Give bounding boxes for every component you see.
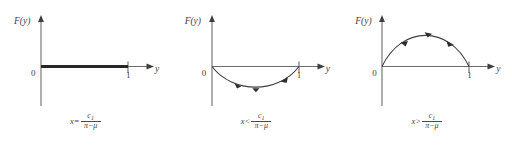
panel-2-numerator-subscript: 1 (262, 115, 265, 121)
panel-3-curve (382, 35, 469, 66)
panel-1-x-axis-label: y (155, 64, 159, 74)
panel-2-caption: x < c1 π−μ (171, 112, 342, 130)
panel-2-x-axis-label: y (326, 64, 330, 74)
panel-1-x-axis-arrowhead (146, 63, 153, 69)
panel-3-caption-fraction: c1 π−μ (422, 112, 442, 130)
panel-2-y-axis-label: F(y) (185, 16, 201, 26)
panel-3-caption: x > c1 π−μ (341, 112, 512, 130)
panel-1-numerator-subscript: 1 (91, 115, 94, 121)
panel-2: F(y) y 0 1 x < c1 π−μ (171, 0, 342, 154)
panel-3-plot: F(y) y 0 1 (341, 0, 512, 112)
panel-2-caption-numerator: c1 (256, 112, 267, 121)
panel-1-caption-numerator: c1 (85, 112, 96, 121)
panel-2-origin-label: 0 (202, 68, 207, 78)
panel-1-y-axis-arrowhead (38, 15, 44, 22)
panel-3-flow-arrow-1 (401, 41, 408, 46)
panel-3-caption-relation: > (415, 117, 421, 126)
panel-3: F(y) y 0 1 x > c1 π−μ (341, 0, 512, 154)
panel-1: F(y) y 0 1 x = c1 π−μ (0, 0, 171, 154)
panel-3-caption-math: x > c1 π−μ (411, 112, 442, 130)
panel-1-caption-math: x = c1 π−μ (70, 112, 101, 130)
panel-2-tick-label-one: 1 (297, 70, 302, 80)
panel-1-tick-label-one: 1 (126, 70, 131, 80)
panel-2-curve (212, 66, 299, 87)
panel-2-numerator-symbol: c (258, 111, 262, 120)
panel-2-caption-relation: < (245, 117, 251, 126)
figure-row: F(y) y 0 1 x = c1 π−μ (0, 0, 512, 154)
panel-1-caption-denominator: π−μ (82, 122, 99, 131)
panel-2-plot: F(y) y 0 1 (171, 0, 342, 112)
panel-1-origin-label: 0 (31, 68, 36, 78)
panel-3-numerator-subscript: 1 (432, 115, 435, 121)
panel-1-y-axis-label: F(y) (14, 16, 30, 26)
panel-2-x-axis-arrowhead (317, 63, 324, 69)
panel-3-x-axis-arrowhead (488, 63, 495, 69)
panel-3-y-axis-arrowhead (379, 15, 385, 22)
panel-2-caption-math: x < c1 π−μ (241, 112, 272, 130)
panel-3-origin-label: 0 (372, 68, 377, 78)
panel-1-caption: x = c1 π−μ (0, 112, 171, 130)
panel-2-y-axis-arrowhead (209, 15, 215, 22)
panel-2-flow-arrow-2 (252, 88, 259, 92)
panel-3-x-axis-label: y (496, 64, 500, 74)
panel-1-plot: F(y) y 0 1 (0, 0, 171, 112)
panel-1-caption-fraction: c1 π−μ (81, 112, 101, 130)
panel-2-flow-arrow-3 (280, 77, 287, 83)
panel-2-caption-fraction: c1 π−μ (251, 112, 271, 130)
panel-3-y-axis-label: F(y) (355, 16, 371, 26)
panel-3-caption-denominator: π−μ (423, 122, 440, 131)
panel-2-caption-denominator: π−μ (253, 122, 270, 131)
panel-3-caption-numerator: c1 (427, 112, 438, 121)
panel-1-caption-relation: = (74, 117, 80, 126)
panel-3-tick-label-one: 1 (467, 70, 472, 80)
